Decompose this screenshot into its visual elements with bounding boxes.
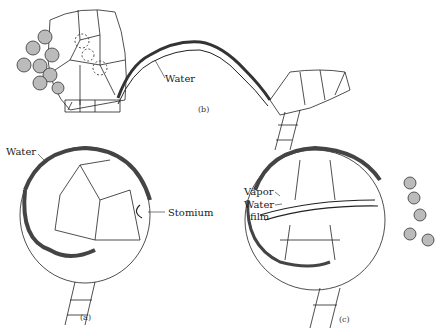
panel-a-drawing xyxy=(20,147,150,325)
sporangium-diagram xyxy=(0,0,441,330)
label-water-a: Water xyxy=(6,146,36,157)
leader-water-film xyxy=(275,204,282,205)
label-water-film-2: film xyxy=(250,211,269,222)
leader-water-b xyxy=(155,60,165,78)
label-stomium: Stomium xyxy=(168,207,214,218)
leader-vapor xyxy=(275,192,280,196)
caption-b: (b) xyxy=(198,105,209,114)
caption-a: (a) xyxy=(80,313,91,322)
label-water-film-1: Water xyxy=(244,199,274,210)
label-vapor: Vapor xyxy=(244,186,273,197)
panel-c-drawing xyxy=(245,148,434,328)
caption-c: (c) xyxy=(339,315,350,324)
leader-water-a xyxy=(38,154,44,160)
label-water-b: Water xyxy=(165,73,195,84)
